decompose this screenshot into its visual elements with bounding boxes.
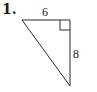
- right-leg-label: 8: [73, 47, 79, 61]
- top-leg-label: 6: [42, 5, 48, 19]
- right-triangle-figure: 6 8: [0, 0, 97, 92]
- right-angle-marker: [60, 20, 70, 30]
